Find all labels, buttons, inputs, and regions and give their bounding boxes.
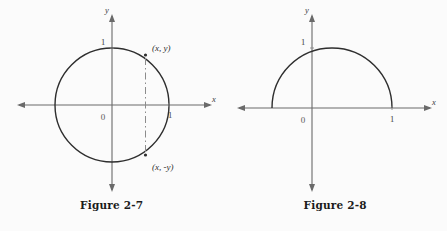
point-label-upper: (x, y) <box>152 43 170 53</box>
y-axis-label: y <box>304 5 309 15</box>
y-axis-bottom-arrowhead <box>309 184 315 192</box>
origin-label: 0 <box>101 112 106 122</box>
origin-label: 0 <box>300 115 305 125</box>
x-axis-left-arrowhead <box>17 102 25 108</box>
figure-panel-2-7: x y 0 1 1 (x, y) (x, -y) Figure 2-7 <box>0 0 224 231</box>
x-axis-group <box>237 105 432 111</box>
y-axis-top-arrowhead <box>109 14 115 22</box>
x-axis-right-arrowhead <box>204 102 212 108</box>
figure-caption-2-7: Figure 2-7 <box>0 199 224 211</box>
point-marker-lower <box>144 153 147 156</box>
figure-2-7-diagram: x y 0 1 1 (x, y) (x, -y) <box>0 0 224 231</box>
figure-2-8-diagram: x y 0 1 1 <box>224 0 447 231</box>
y-axis-label: y <box>104 5 109 15</box>
y-tick-label-1: 1 <box>300 37 304 47</box>
x-axis-left-arrowhead <box>237 105 245 111</box>
figure-panel-2-8: x y 0 1 1 Figure 2-8 <box>224 0 447 231</box>
y-tick-label-1: 1 <box>101 37 105 47</box>
point-marker-upper <box>144 53 147 56</box>
x-axis-label: x <box>211 94 216 104</box>
y-axis-top-arrowhead <box>309 14 315 22</box>
y-axis-group <box>309 14 315 192</box>
figure-caption-2-8: Figure 2-8 <box>224 199 447 211</box>
y-axis-group <box>109 14 115 192</box>
y-axis-bottom-arrowhead <box>109 184 115 192</box>
x-tick-label-1: 1 <box>389 114 393 124</box>
x-axis-group <box>17 102 212 108</box>
figure-pair-container: x y 0 1 1 (x, y) (x, -y) Figure 2-7 <box>0 0 447 231</box>
x-tick-label-1: 1 <box>168 110 172 120</box>
point-label-lower: (x, -y) <box>152 162 173 172</box>
x-axis-right-arrowhead <box>424 105 432 111</box>
x-axis-label: x <box>431 97 436 107</box>
upper-semicircle-curve <box>272 48 392 108</box>
